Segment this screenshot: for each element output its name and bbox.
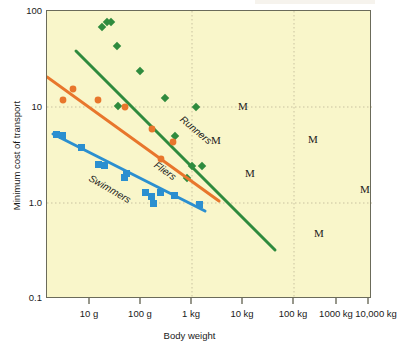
annotation-m-3: M [308, 133, 318, 145]
annotation-m-2: M [211, 134, 221, 146]
annotation-m-6: M [314, 227, 324, 239]
y-axis-title: Minimum cost of transport [11, 56, 22, 256]
plot-canvas [47, 11, 372, 299]
runners-markers [98, 18, 206, 182]
scan-artifact-top [255, 0, 375, 4]
xtick-label-1000kg: 1000 kg [319, 308, 353, 319]
plot-area: Runners Fliers Swimmers M M M M M M [46, 10, 371, 298]
xtick-label-10000kg: 10,000 kg [355, 308, 397, 319]
annotation-m-4: M [245, 167, 255, 179]
xtick-label-10kg: 10 kg [230, 308, 253, 319]
series-fliers [47, 77, 219, 201]
xtick-label-10g: 10 g [80, 308, 99, 319]
ytick-label-0.1: 0.1 [0, 292, 42, 303]
series-runners [76, 18, 275, 250]
xtick-label-100g: 100 g [128, 308, 152, 319]
x-axis-title: Body weight [0, 330, 379, 341]
x-axis-ticks [46, 298, 371, 306]
ytick-label-100: 100 [0, 5, 42, 16]
fliers-fit-line [47, 77, 219, 201]
annotation-m-5: M [360, 183, 370, 195]
runners-fit-line [76, 51, 275, 250]
xtick-label-100kg: 100 kg [279, 308, 308, 319]
xtick-label-1kg: 1 kg [182, 308, 200, 319]
annotation-m-1: M [238, 100, 248, 112]
